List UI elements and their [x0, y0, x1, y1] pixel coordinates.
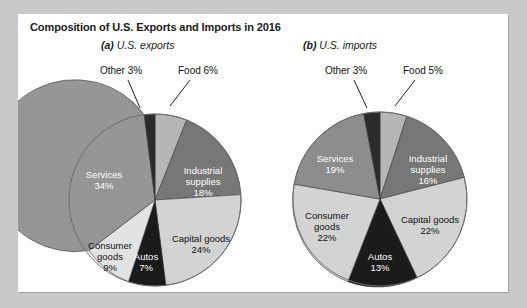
svg-text:Autos: Autos — [368, 251, 393, 262]
svg-text:19%: 19% — [325, 164, 345, 175]
svg-text:Services: Services — [317, 153, 354, 164]
svg-text:16%: 16% — [418, 175, 438, 186]
svg-text:Services: Services — [86, 169, 123, 180]
svg-text:supplies: supplies — [186, 176, 221, 187]
svg-text:Industrial: Industrial — [184, 165, 223, 176]
figure-title: Composition of U.S. Exports and Imports … — [30, 21, 281, 33]
slice-label-autos-b: Autos 13% — [368, 251, 393, 273]
leader-line-other-b — [354, 80, 367, 108]
svg-text:Consumer: Consumer — [88, 240, 132, 251]
panel-b-tag: (b) — [303, 39, 316, 51]
callout-food-b: Food 5% — [403, 65, 443, 76]
svg-text:13%: 13% — [370, 262, 390, 273]
panel-b-caption: (b) U.S. imports — [303, 39, 377, 51]
svg-text:supplies: supplies — [411, 164, 446, 175]
figure-card: Composition of U.S. Exports and Imports … — [18, 14, 508, 292]
panel-a-caption: (a) U.S. exports — [101, 39, 175, 51]
svg-text:Capital goods: Capital goods — [172, 233, 230, 244]
svg-text:Capital goods: Capital goods — [401, 214, 459, 225]
svg-text:24%: 24% — [191, 244, 211, 255]
leader-line-food-a — [170, 80, 190, 106]
panel-a-caption-text: U.S. exports — [114, 39, 175, 51]
svg-text:18%: 18% — [193, 187, 213, 198]
svg-text:goods: goods — [97, 251, 123, 262]
callout-other-a: Other 3% — [100, 65, 142, 76]
svg-text:22%: 22% — [420, 225, 440, 236]
pie-svg-imports: Other 3% Food 5% Industrial supplies 16% — [240, 54, 485, 292]
callout-other-b: Other 3% — [325, 65, 367, 76]
leader-line-food-b — [395, 80, 415, 106]
pie-chart-us-imports: Other 3% Food 5% Industrial supplies 16% — [240, 54, 485, 292]
callout-food-a: Food 6% — [178, 65, 218, 76]
svg-text:22%: 22% — [317, 232, 337, 243]
svg-text:34%: 34% — [94, 180, 114, 191]
pie-chart-us-exports: Other 3% Food 6% Industrial supplies 18% — [18, 54, 263, 292]
svg-text:7%: 7% — [139, 262, 153, 273]
svg-text:Industrial: Industrial — [409, 153, 448, 164]
pie-svg-exports: Other 3% Food 6% Industrial supplies 18% — [18, 54, 263, 292]
svg-text:9%: 9% — [103, 262, 117, 273]
panel-b-caption-text: U.S. imports — [316, 39, 377, 51]
svg-text:Autos: Autos — [134, 251, 159, 262]
panel-a-tag: (a) — [101, 39, 114, 51]
svg-text:goods: goods — [314, 221, 340, 232]
svg-text:Consumer: Consumer — [305, 210, 349, 221]
